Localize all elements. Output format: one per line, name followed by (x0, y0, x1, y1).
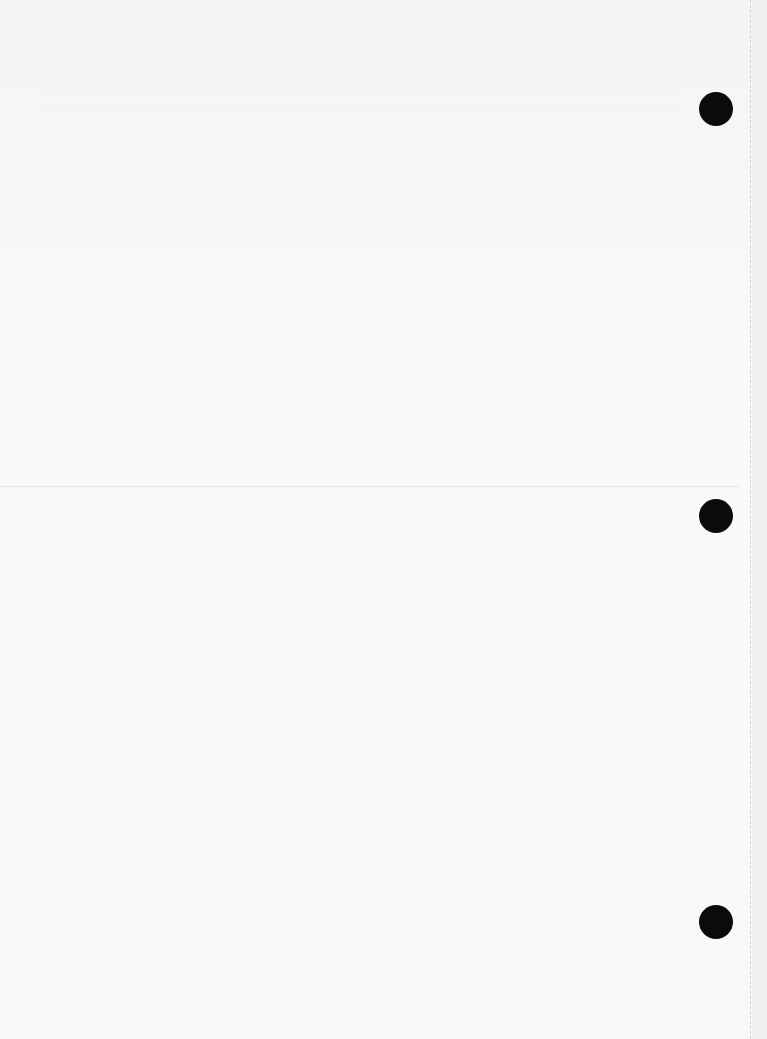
scanned-page (0, 0, 767, 1039)
binder-hole-top (699, 92, 733, 126)
binder-hole-middle (699, 499, 733, 533)
binder-hole-bottom (699, 905, 733, 939)
page-fold-line (0, 486, 740, 487)
perforation-line (750, 0, 751, 1039)
bleed-through-line (40, 110, 680, 111)
edge-strip (752, 0, 767, 1039)
bleed-through-line (40, 95, 680, 96)
